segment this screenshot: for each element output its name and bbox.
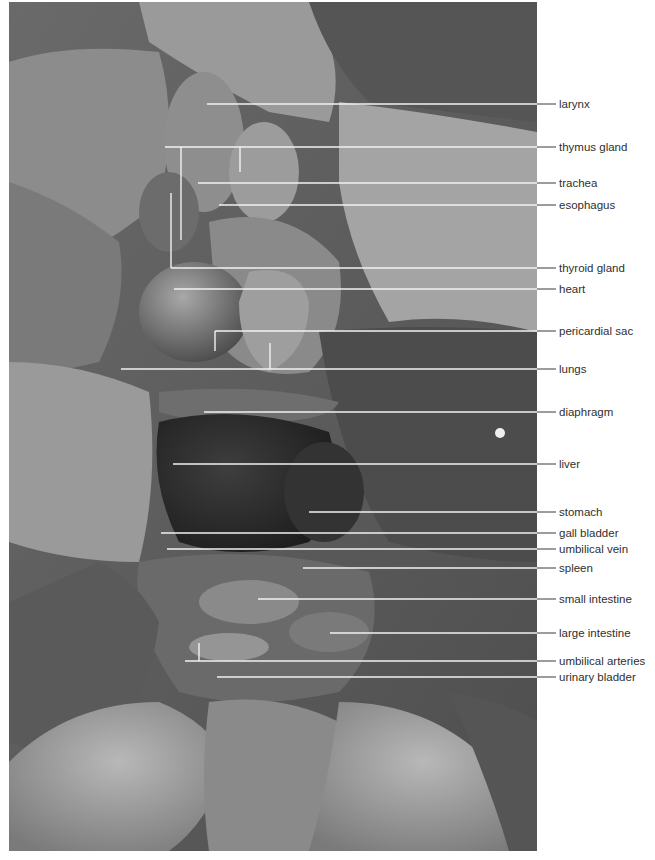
label-esophagus: esophagus [559, 199, 615, 211]
label-spleen: spleen [559, 562, 593, 574]
label-thymus-gland: thymus gland [559, 141, 627, 153]
label-lungs: lungs [559, 363, 587, 375]
label-liver: liver [559, 458, 580, 470]
label-thyroid-gland: thyroid gland [559, 262, 625, 274]
label-trachea: trachea [559, 177, 597, 189]
leader-lines [0, 0, 655, 860]
label-umbilical-vein: umbilical vein [559, 543, 628, 555]
label-gall-bladder: gall bladder [559, 527, 618, 539]
label-stomach: stomach [559, 506, 602, 518]
label-heart: heart [559, 283, 585, 295]
leader-lines-svg [0, 0, 655, 860]
label-larynx: larynx [559, 98, 590, 110]
label-urinary-bladder: urinary bladder [559, 671, 636, 683]
label-small-intestine: small intestine [559, 593, 632, 605]
label-pericardial-sac: pericardial sac [559, 325, 633, 337]
label-umbilical-arteries: umbilical arteries [559, 655, 645, 667]
label-diaphragm: diaphragm [559, 406, 613, 418]
label-large-intestine: large intestine [559, 627, 631, 639]
